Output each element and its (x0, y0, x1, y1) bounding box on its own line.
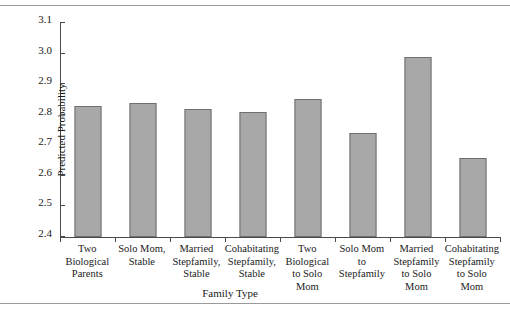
y-tick-label: 2.6 (38, 167, 52, 178)
x-tick-mark (335, 237, 336, 242)
y-tick-label: 2.8 (38, 106, 52, 117)
figure-bottom-rule (0, 303, 510, 304)
chart-figure: Predicted Probability 2.42.52.62.72.82.9… (0, 0, 510, 313)
bar (239, 112, 266, 237)
x-tick-label: Two Biological to Solo Mom (280, 243, 335, 293)
y-tick-label: 2.9 (38, 75, 52, 86)
x-tick-mark (500, 237, 501, 242)
bar (129, 103, 156, 238)
bar (349, 133, 376, 237)
bar-slot (60, 23, 115, 237)
bar-slot (335, 23, 390, 237)
x-tick-mark (390, 237, 391, 242)
x-tick-label: Cohabitating Stepfamily to Solo Mom (444, 243, 500, 293)
bar (459, 158, 486, 237)
y-tick-label: 3.1 (38, 14, 52, 25)
figure-top-rule (0, 5, 510, 6)
bar (184, 109, 211, 237)
x-tick-label: Married Stepfamily to Solo Mom (389, 243, 444, 293)
bar-slot (115, 23, 170, 237)
bar-slot (390, 23, 445, 237)
x-tick-mark (225, 237, 226, 242)
bar-slot (445, 23, 500, 237)
x-tick-mark (280, 237, 281, 242)
x-tick-label: Cohabitating Stepfamily, Stable (224, 243, 280, 293)
y-tick-label: 2.4 (38, 228, 52, 239)
x-axis-label: Family Type (0, 287, 460, 299)
y-tick-label: 3.0 (38, 45, 52, 56)
x-tick-mark (170, 237, 171, 242)
y-tick-label: 2.7 (38, 136, 52, 147)
bar-series (60, 23, 500, 237)
bar-slot (170, 23, 225, 237)
x-tick-label: Two Biological Parents (60, 243, 115, 293)
x-tick-label: Solo Mom to Stepfamily (335, 243, 390, 293)
x-tick-mark (60, 237, 61, 242)
x-axis-tick-labels: Two Biological ParentsSolo Mom, StableMa… (60, 243, 500, 293)
bar-slot (225, 23, 280, 237)
x-tick-label: Solo Mom, Stable (115, 243, 170, 293)
plot-area: Predicted Probability 2.42.52.62.72.82.9… (60, 23, 500, 237)
bar (74, 106, 101, 237)
x-tick-label: Married Stepfamily, Stable (169, 243, 224, 293)
x-tick-mark (445, 237, 446, 242)
bar (294, 99, 321, 237)
bar (404, 57, 431, 237)
x-tick-mark (115, 237, 116, 242)
bar-slot (280, 23, 335, 237)
y-tick-label: 2.5 (38, 197, 52, 208)
